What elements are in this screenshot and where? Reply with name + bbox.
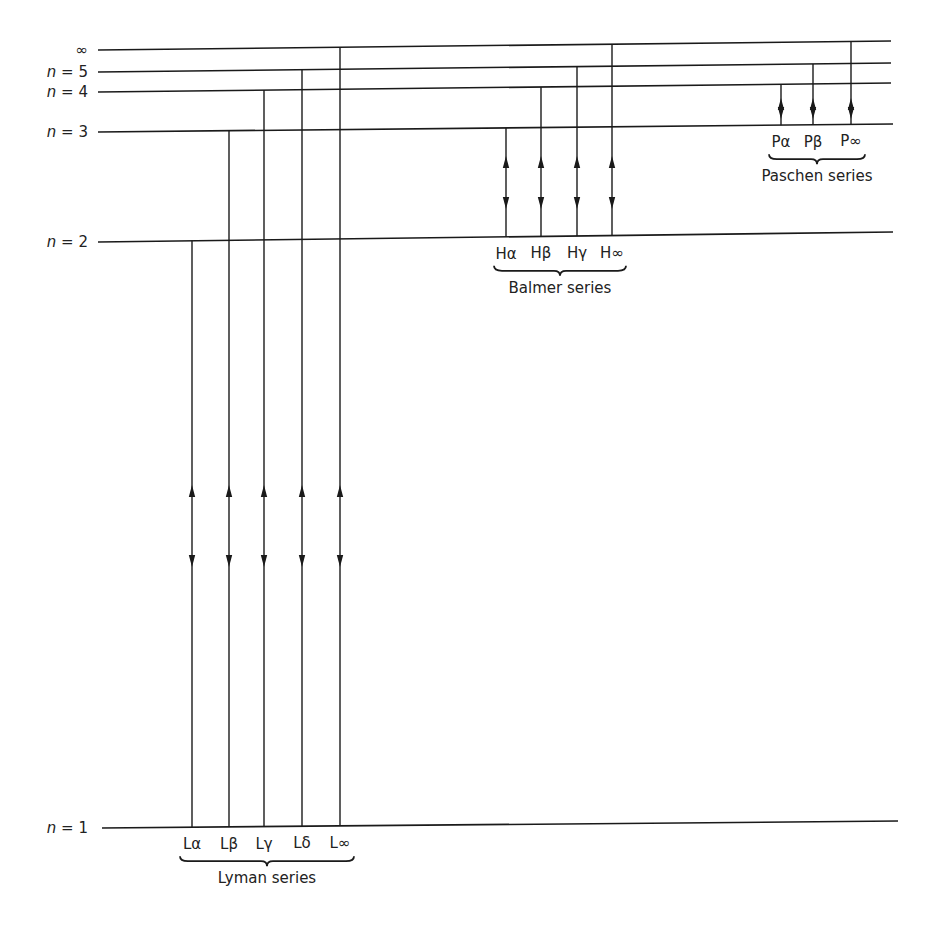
series-label: Lyman series bbox=[218, 869, 317, 887]
series-brace bbox=[494, 266, 626, 276]
line-label: P∞ bbox=[840, 132, 862, 150]
line-label: Hβ bbox=[531, 244, 552, 262]
series-label: Balmer series bbox=[509, 279, 612, 297]
arrow-up-icon bbox=[226, 485, 232, 497]
series-brace bbox=[769, 154, 865, 164]
line-label: Pα bbox=[772, 133, 791, 151]
arrow-down-icon bbox=[609, 197, 615, 209]
level-label-inf: ∞ bbox=[76, 41, 89, 59]
line-label: Lγ bbox=[255, 835, 272, 853]
arrow-down-icon bbox=[299, 555, 305, 567]
level-label-n5: n = 5 bbox=[47, 63, 88, 81]
level-line-n5 bbox=[98, 63, 891, 72]
lyman-series bbox=[189, 47, 343, 827]
arrow-up-icon bbox=[574, 156, 580, 168]
level-line-n4 bbox=[98, 83, 891, 92]
level-label-n1: n = 1 bbox=[47, 819, 88, 837]
labels: ∞n = 5n = 4n = 3n = 2n = 1LαLβLγLδL∞Lyma… bbox=[47, 41, 873, 887]
arrow-down-icon bbox=[810, 107, 816, 119]
level-line-n3 bbox=[98, 124, 893, 132]
level-label-n2: n = 2 bbox=[47, 233, 88, 251]
line-label: Hγ bbox=[567, 244, 587, 262]
line-label: Lδ bbox=[293, 834, 311, 852]
arrow-down-icon bbox=[337, 555, 343, 567]
level-label-n3: n = 3 bbox=[47, 123, 88, 141]
arrow-up-icon bbox=[503, 156, 509, 168]
arrow-down-icon bbox=[574, 197, 580, 209]
transitions bbox=[189, 41, 854, 827]
arrow-down-icon bbox=[261, 555, 267, 567]
arrow-down-icon bbox=[226, 555, 232, 567]
arrow-up-icon bbox=[609, 156, 615, 168]
level-line-n1 bbox=[102, 821, 898, 828]
arrow-up-icon bbox=[299, 485, 305, 497]
line-label: Lα bbox=[183, 835, 201, 853]
arrow-down-icon bbox=[538, 197, 544, 209]
energy-level-diagram: ∞n = 5n = 4n = 3n = 2n = 1LαLβLγLδL∞Lyma… bbox=[0, 0, 936, 938]
arrow-up-icon bbox=[337, 485, 343, 497]
line-label: L∞ bbox=[330, 834, 351, 852]
level-label-n4: n = 4 bbox=[47, 83, 88, 101]
balmer-series bbox=[503, 44, 615, 237]
arrow-down-icon bbox=[503, 197, 509, 209]
line-label: Lβ bbox=[220, 835, 238, 853]
level-line-n2 bbox=[98, 232, 893, 242]
arrow-down-icon bbox=[778, 107, 784, 119]
line-label: Hα bbox=[495, 245, 516, 263]
arrow-up-icon bbox=[261, 485, 267, 497]
arrow-down-icon bbox=[848, 107, 854, 119]
line-label: Pβ bbox=[804, 133, 823, 151]
arrow-up-icon bbox=[189, 485, 195, 497]
series-brace bbox=[180, 856, 354, 866]
arrow-up-icon bbox=[538, 156, 544, 168]
series-label: Paschen series bbox=[761, 167, 872, 185]
arrow-down-icon bbox=[189, 555, 195, 567]
level-line-inf bbox=[98, 41, 891, 50]
line-label: H∞ bbox=[600, 244, 624, 262]
